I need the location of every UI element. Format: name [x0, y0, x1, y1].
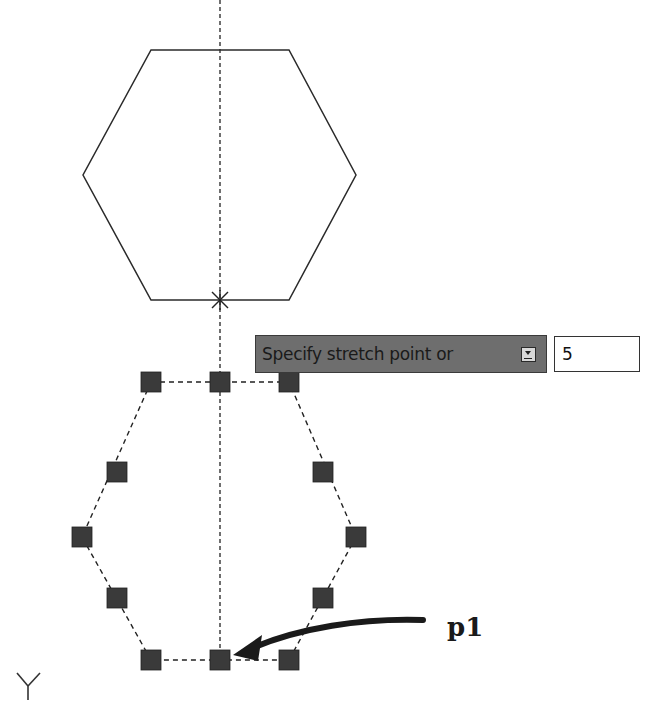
grip-top-right[interactable]	[279, 372, 299, 392]
grip-lower-left-mid[interactable]	[107, 588, 127, 608]
grip-bottom-right[interactable]	[279, 650, 299, 670]
grip-right[interactable]	[346, 527, 366, 547]
down-arrow-icon[interactable]	[521, 347, 536, 362]
stretched-hexagon-preview	[82, 382, 356, 660]
grip-bottom-mid-p1[interactable]	[210, 650, 230, 670]
distance-input[interactable]	[554, 336, 640, 372]
dynamic-input-prompt: Specify stretch point or	[255, 335, 547, 373]
grip-lower-right-mid[interactable]	[313, 588, 333, 608]
grip-upper-left-mid[interactable]	[107, 462, 127, 482]
ucs-y-axis-icon	[17, 673, 40, 700]
grip-upper-right-mid[interactable]	[313, 462, 333, 482]
grip-top-left[interactable]	[141, 372, 161, 392]
grip-left[interactable]	[72, 527, 92, 547]
grip-top-mid[interactable]	[210, 372, 230, 392]
grip-bottom-left[interactable]	[141, 650, 161, 670]
p1-annotation-label: p1	[447, 612, 483, 642]
p1-arrow-icon	[233, 620, 423, 661]
prompt-label: Specify stretch point or	[262, 344, 521, 364]
